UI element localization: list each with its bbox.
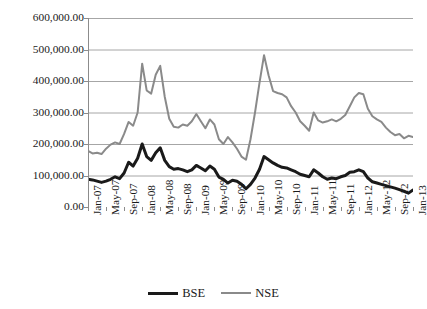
x-axis-tick-mark: [124, 207, 125, 211]
x-axis-tick-label: Jan-10: [255, 185, 266, 215]
x-axis-tick-label: May-11: [327, 180, 338, 215]
x-axis-tick-mark: [305, 207, 306, 211]
x-axis-tick-mark: [196, 207, 197, 211]
y-axis-tick-mark: [84, 113, 88, 114]
chart-legend: BSE NSE: [0, 282, 427, 304]
x-axis-tick-label: Jan-12: [363, 185, 374, 215]
y-axis-tick-label: 600,000.00: [4, 12, 84, 23]
legend-item-nse: NSE: [221, 287, 279, 299]
chart-svg: [88, 18, 413, 207]
y-axis-tick-mark: [84, 176, 88, 177]
legend-item-bse: BSE: [148, 287, 205, 299]
y-axis-tick-mark: [84, 18, 88, 19]
x-axis-tick-label: Sep-07: [128, 183, 139, 215]
series-lines: [88, 55, 413, 193]
x-axis-tick-label: Jan-11: [309, 186, 320, 215]
y-axis-tick-mark: [84, 81, 88, 82]
x-axis-tick-mark: [160, 207, 161, 211]
chart-container: 600,000.00500,000.00400,000.00300,000.00…: [0, 0, 427, 309]
x-axis-tick-label: Jan-13: [417, 185, 427, 215]
x-axis-tick-label: Jan-08: [146, 185, 157, 215]
y-axis-labels: 600,000.00500,000.00400,000.00300,000.00…: [0, 0, 84, 309]
x-axis-tick-label: May-12: [381, 180, 392, 215]
x-axis-tick-mark: [323, 207, 324, 211]
x-axis-tick-label: May-10: [273, 180, 284, 215]
x-axis-labels: Jan-07May-07Sep-07Jan-08May-08Sep-08Jan-…: [88, 207, 413, 277]
x-axis-tick-mark: [413, 207, 414, 211]
x-axis-tick-mark: [269, 207, 270, 211]
x-axis-tick-mark: [377, 207, 378, 211]
legend-swatch-nse-icon: [221, 292, 251, 294]
x-axis-tick-label: Sep-11: [345, 184, 356, 215]
y-axis-tick-label: 200,000.00: [4, 138, 84, 149]
x-axis-tick-mark: [395, 207, 396, 211]
x-axis-tick-mark: [341, 207, 342, 211]
x-axis-tick-mark: [88, 207, 89, 211]
x-axis-tick-mark: [214, 207, 215, 211]
y-axis-tick-label: 400,000.00: [4, 75, 84, 86]
legend-label-bse: BSE: [182, 287, 205, 299]
x-axis-tick-label: May-09: [218, 180, 229, 215]
x-axis-tick-label: Sep-12: [399, 183, 410, 215]
y-axis-tick-mark: [84, 144, 88, 145]
y-axis-tick-label: 500,000.00: [4, 44, 84, 55]
x-axis-tick-mark: [287, 207, 288, 211]
x-axis-tick-mark: [251, 207, 252, 211]
x-axis-tick-mark: [106, 207, 107, 211]
x-axis-tick-label: May-08: [164, 180, 175, 215]
legend-swatch-bse-icon: [148, 292, 178, 295]
y-axis-tick-label: 100,000.00: [4, 170, 84, 181]
x-axis-tick-mark: [142, 207, 143, 211]
x-axis-tick-label: Jan-07: [92, 185, 103, 215]
x-axis-tick-label: Sep-10: [291, 183, 302, 215]
x-axis-tick-mark: [178, 207, 179, 211]
x-axis-tick-mark: [359, 207, 360, 211]
legend-label-nse: NSE: [255, 287, 279, 299]
y-axis-tick-mark: [84, 207, 88, 208]
x-axis-tick-mark: [232, 207, 233, 211]
plot-area: [88, 18, 413, 207]
x-axis-tick-label: Sep-08: [182, 183, 193, 215]
x-axis-tick-label: Jan-09: [200, 185, 211, 215]
y-axis-tick-mark: [84, 50, 88, 51]
y-axis-tick-label: 300,000.00: [4, 107, 84, 118]
x-axis-tick-label: May-07: [110, 180, 121, 215]
y-axis-tick-label: 0.00: [4, 201, 84, 212]
x-axis-tick-label: Sep-09: [236, 183, 247, 215]
